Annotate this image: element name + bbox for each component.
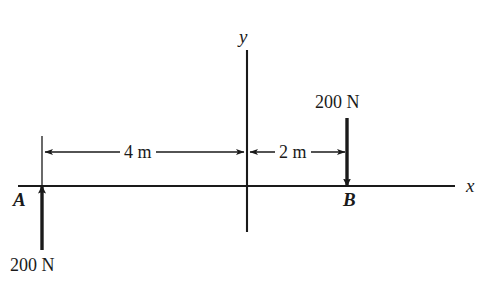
free-body-diagram: y x A B 4 m 2 m 200 N 200 N <box>0 0 494 301</box>
dimension-label-2m: 2 m <box>275 143 311 161</box>
y-axis-label: y <box>239 27 247 46</box>
x-axis-label: x <box>466 176 474 195</box>
point-label-b: B <box>343 190 356 209</box>
point-label-a: A <box>13 190 26 209</box>
force-label-a: 200 N <box>10 256 55 274</box>
force-label-b: 200 N <box>315 93 360 111</box>
dimension-label-4m: 4 m <box>120 143 156 161</box>
